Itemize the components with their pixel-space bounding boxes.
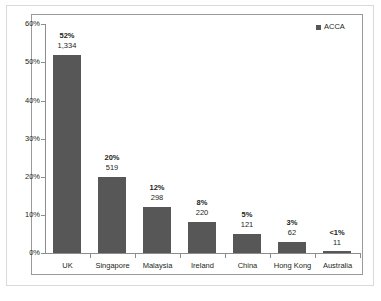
bar-uk[interactable] bbox=[53, 55, 81, 253]
y-tick-mark bbox=[41, 101, 46, 102]
bar-value-label-percent: 20% bbox=[95, 153, 129, 162]
x-axis-separator bbox=[90, 253, 91, 258]
y-axis-tick-label: 20% bbox=[6, 173, 40, 181]
y-tick-mark bbox=[41, 62, 46, 63]
y-axis-tick-label: 30% bbox=[6, 135, 40, 143]
bar-value-label-count: 62 bbox=[275, 228, 309, 237]
chart-legend: ACCA bbox=[316, 23, 345, 31]
bar-hong-kong[interactable] bbox=[278, 242, 306, 253]
chart-figure: 0% 10% 20% 30% 40% 50% 60% UK Singapore … bbox=[0, 0, 381, 301]
x-axis-line bbox=[45, 253, 360, 254]
x-axis-category-label: China bbox=[225, 261, 270, 270]
legend-item-label: ACCA bbox=[324, 23, 345, 31]
x-axis-separator bbox=[360, 253, 361, 258]
bar-value-label-count: 298 bbox=[140, 193, 174, 202]
bar-ireland[interactable] bbox=[188, 222, 216, 253]
y-axis-tick-label: 40% bbox=[6, 97, 40, 105]
x-axis-category-label: Ireland bbox=[180, 261, 225, 270]
bar-australia[interactable] bbox=[323, 251, 351, 253]
x-axis-category-label: Singapore bbox=[90, 261, 135, 270]
bar-value-label-percent: 3% bbox=[275, 218, 309, 227]
y-axis-tick-label: 50% bbox=[6, 58, 40, 66]
x-axis-separator bbox=[270, 253, 271, 258]
bar-value-label-percent: 52% bbox=[50, 31, 84, 40]
bar-value-label-percent: 12% bbox=[140, 183, 174, 192]
y-tick-mark bbox=[41, 215, 46, 216]
bar-china[interactable] bbox=[233, 234, 261, 253]
y-tick-mark bbox=[41, 24, 46, 25]
x-axis-category-label: UK bbox=[45, 261, 90, 270]
bar-value-label-count: 220 bbox=[185, 208, 219, 217]
bar-singapore[interactable] bbox=[98, 177, 126, 253]
x-axis-category-label: Hong Kong bbox=[270, 261, 315, 270]
y-axis-tick-label: 0% bbox=[6, 249, 40, 257]
bar-value-label-count: 121 bbox=[230, 220, 264, 229]
bar-value-label-percent: <1% bbox=[320, 228, 354, 237]
y-axis-tick-label: 60% bbox=[6, 20, 40, 28]
x-axis-separator bbox=[225, 253, 226, 258]
bar-value-label-percent: 8% bbox=[185, 198, 219, 207]
bar-value-label-count: 519 bbox=[95, 163, 129, 172]
bar-value-label-count: 1,334 bbox=[50, 41, 84, 50]
x-axis-category-label: Malaysia bbox=[135, 261, 180, 270]
bar-value-label-percent: 5% bbox=[230, 210, 264, 219]
bar-value-label-count: 11 bbox=[320, 238, 354, 247]
y-tick-mark bbox=[41, 177, 46, 178]
x-axis-separator bbox=[180, 253, 181, 258]
legend-swatch-icon bbox=[316, 25, 321, 30]
x-axis-separator bbox=[135, 253, 136, 258]
bar-malaysia[interactable] bbox=[143, 207, 171, 253]
x-axis-category-label: Australia bbox=[315, 261, 360, 270]
y-tick-mark bbox=[41, 139, 46, 140]
x-axis-separator bbox=[315, 253, 316, 258]
y-axis-tick-label: 10% bbox=[6, 211, 40, 219]
